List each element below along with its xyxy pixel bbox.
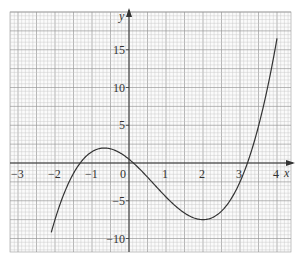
- cubic-graph: −3−2−10123415105−5−10 x y: [0, 0, 297, 263]
- x-tick-label: −2: [48, 167, 61, 181]
- y-tick-label: 10: [113, 81, 125, 95]
- grid-paper: [10, 12, 291, 252]
- y-tick-label: −5: [112, 194, 125, 208]
- x-tick-label: 0: [120, 167, 126, 181]
- y-tick-label: −10: [106, 232, 125, 246]
- x-tick-label: 1: [162, 167, 168, 181]
- x-tick-label: −3: [11, 167, 24, 181]
- y-axis-label: y: [118, 9, 125, 23]
- y-tick-label: 15: [113, 43, 125, 57]
- x-tick-label: 2: [199, 167, 205, 181]
- x-tick-label: 4: [273, 167, 279, 181]
- x-axis-label: x: [283, 166, 290, 180]
- x-tick-label: −1: [85, 167, 98, 181]
- y-tick-label: 5: [119, 118, 125, 132]
